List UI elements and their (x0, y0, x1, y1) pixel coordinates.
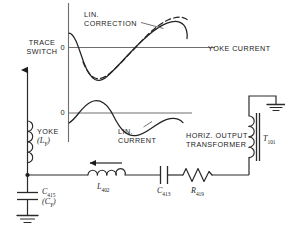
capacitor-c415-symbol-label: (CY) (42, 197, 56, 210)
lin-correction-label: LIN. CORRECTION (84, 10, 137, 28)
cy-open: (C (42, 197, 50, 206)
transformer-name-label: HORIZ. OUTPUT TRANSFORMER (186, 131, 248, 149)
lin-current-label: LIN. CURRENT (118, 127, 156, 145)
ground-symbol-transformer (267, 105, 285, 111)
yoke-label: YOKE (37, 127, 59, 136)
resistor-r419-symbol (183, 169, 212, 182)
schematic-diagram: TRACE SWITCH 0 0 LIN. CORRECTION YOKE CU… (0, 0, 285, 234)
resistor-r419-label: R419 (191, 186, 204, 199)
yoke-current-label: YOKE CURRENT (208, 44, 271, 53)
inductor-l402-symbol (88, 169, 125, 175)
zero-label-bottom: 0 (61, 108, 65, 117)
c413-ref-sub: 413 (162, 191, 170, 197)
yoke-current-curve (69, 22, 187, 81)
capacitor-c413-label: C413 (157, 186, 170, 199)
yoke-symbol-label: (LY) (37, 136, 50, 149)
r419-ref-sub: 419 (196, 191, 204, 197)
cy-close: ) (53, 197, 56, 206)
zero-label-top: 0 (61, 43, 65, 52)
yoke-inductor-symbol (28, 121, 33, 163)
ground-symbol-c415 (17, 216, 38, 223)
capacitor-c413-symbol (161, 166, 168, 184)
l402-ref-sub: 402 (101, 187, 109, 193)
yoke-sym-close: ) (47, 136, 50, 145)
lin-correction-leader (141, 23, 164, 29)
capacitor-c415-symbol (17, 175, 38, 215)
inductor-l402-label: L402 (97, 182, 110, 195)
transformer-t101-label: T101 (263, 134, 276, 147)
t101-ref-sub: 101 (267, 139, 275, 145)
